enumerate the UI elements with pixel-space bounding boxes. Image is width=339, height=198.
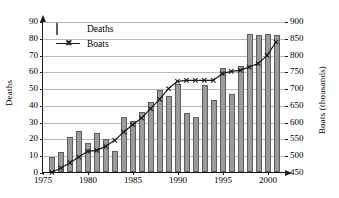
y-axis-left-tick-label: 50 [29, 84, 38, 93]
bar [265, 34, 271, 172]
chart-figure: Deaths Boats (thousands) 010203040506070… [0, 0, 339, 198]
x-axis-tick-label: 1990 [169, 176, 187, 185]
y-axis-right-tick [285, 139, 288, 140]
bar [211, 100, 217, 172]
y-axis-right-tick-label: 600 [290, 118, 304, 127]
line-marker-x [202, 78, 206, 82]
bar [202, 85, 208, 172]
y-axis-right-tick [285, 72, 288, 73]
y-axis-right-tick [285, 123, 288, 124]
y-axis-arrow-icon [40, 15, 46, 22]
y-axis-left-tick [40, 39, 43, 40]
y-axis-right-tick-label: 850 [290, 34, 304, 43]
y-axis-right-tick [285, 156, 288, 157]
bar [157, 90, 163, 172]
line-marker-x [193, 78, 197, 82]
y-axis-left-tick-label: 70 [29, 51, 38, 60]
bar [112, 151, 118, 172]
y-axis-right-tick-label: 650 [290, 101, 304, 110]
line-marker-x [211, 78, 215, 82]
bar [193, 117, 199, 172]
y-axis-right-tick-label: 750 [290, 67, 304, 76]
y-axis-right-title: Boats (thousands) [317, 40, 327, 160]
bar [256, 35, 262, 172]
y-axis-left-tick [40, 89, 43, 90]
y-axis-left-tick [40, 123, 43, 124]
bar [67, 137, 73, 172]
y-axis-right-tick-label: 800 [290, 51, 304, 60]
y-axis-right-tick-label: 500 [290, 151, 304, 160]
y-axis-right-tick [285, 39, 288, 40]
y-axis-left-tick-label: 20 [29, 134, 38, 143]
x-axis-tick-label: 1985 [124, 176, 142, 185]
legend-item-deaths: Deaths [56, 21, 113, 36]
bar [85, 143, 91, 172]
y-axis-right-tick [285, 173, 288, 174]
bar [229, 94, 235, 172]
legend-label-deaths: Deaths [87, 24, 113, 34]
bar [130, 121, 136, 172]
y-axis-left-tick-label: 80 [29, 34, 38, 43]
y-axis-right-tick [285, 106, 288, 107]
y-axis-right-tick [285, 56, 288, 57]
x-axis-tick-label: 1995 [214, 176, 232, 185]
bar [247, 34, 253, 172]
y-axis-right-tick-label: 450 [290, 168, 304, 177]
bar [94, 133, 100, 172]
bar [58, 152, 64, 172]
y-axis-left-tick-label: 90 [29, 17, 38, 26]
legend-label-boats: Boats [87, 39, 109, 49]
bar [103, 139, 109, 172]
y-axis-left-tick [40, 72, 43, 73]
y-axis-left-tick [40, 22, 43, 23]
bar [49, 157, 55, 172]
bar [121, 117, 127, 172]
bar [139, 112, 145, 172]
legend-item-boats: ✖ Boats [56, 36, 113, 51]
bar [175, 84, 181, 172]
chart-legend: Deaths ✖ Boats [56, 21, 113, 51]
y-axis-right-tick-label: 900 [290, 17, 304, 26]
x-axis-tick-label: 1980 [79, 176, 97, 185]
y-axis-left-tick-label: 30 [29, 118, 38, 127]
line-marker-x [175, 79, 179, 83]
y-axis-right-tick-label: 700 [290, 84, 304, 93]
y-axis-left-tick [40, 56, 43, 57]
y-axis-right-tick [285, 89, 288, 90]
x-axis-tick-label: 2000 [259, 176, 277, 185]
bar [238, 66, 244, 172]
y-axis-left-tick-label: 10 [29, 151, 38, 160]
y-axis-left-title: Deaths [4, 65, 14, 121]
y-axis-left-tick [40, 139, 43, 140]
line-marker-icon: ✖ [56, 39, 80, 48]
bar [148, 102, 154, 172]
y-axis-left-tick [40, 156, 43, 157]
bar [184, 113, 190, 172]
y-axis-right-tick-label: 550 [290, 134, 304, 143]
line-marker-x [184, 78, 188, 82]
y-axis-left-tick-label: 40 [29, 101, 38, 110]
bar-swatch-icon [56, 24, 80, 33]
bar [274, 35, 280, 172]
x-axis-tick-label: 1975 [34, 176, 52, 185]
bar [76, 131, 82, 172]
y-axis-left-tick [40, 106, 43, 107]
y-axis-left-tick-label: 60 [29, 67, 38, 76]
bar [166, 96, 172, 172]
bar [220, 68, 226, 172]
y-axis-right-tick [285, 22, 288, 23]
